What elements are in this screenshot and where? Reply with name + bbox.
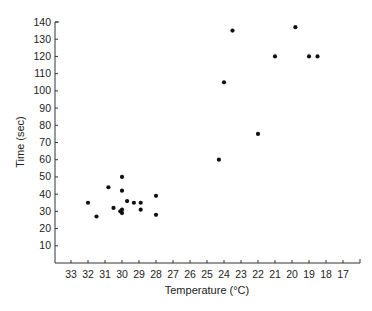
data-point [139,208,143,212]
data-point [256,132,260,136]
data-point [120,189,124,193]
x-tick-label: 24 [218,268,230,280]
y-tick-label: 140 [33,16,51,28]
data-point [111,206,115,210]
y-tick-label: 20 [39,222,51,234]
data-point [120,211,124,215]
y-tick-label: 110 [34,67,51,79]
x-tick-label: 17 [337,268,349,280]
y-tick-label: 30 [39,205,51,217]
data-point [217,158,221,162]
x-tick-label: 19 [303,268,315,280]
y-tick-label: 40 [39,188,51,200]
data-point [273,54,277,58]
x-tick-label: 32 [82,268,94,280]
data-point [94,214,98,218]
data-point [315,54,319,58]
y-tick-label: 10 [39,239,51,251]
data-point [230,29,234,33]
y-axis: 102030405060708090100110120130140 [33,16,59,264]
x-tick-label: 26 [184,268,196,280]
data-point [86,201,90,205]
scatter-chart: 102030405060708090100110120130140 333231… [0,0,372,311]
data-point [154,194,158,198]
x-tick-label: 31 [99,268,111,280]
y-tick-label: 130 [33,33,51,45]
y-tick-label: 80 [39,119,51,131]
x-tick-label: 22 [252,268,264,280]
data-point [293,25,297,29]
x-axis: 3332313029282726252423222120191817 [55,259,360,280]
x-tick-label: 33 [65,268,77,280]
x-tick-label: 23 [235,268,247,280]
x-tick-label: 21 [269,268,281,280]
x-tick-label: 25 [201,268,213,280]
data-point [154,213,158,217]
data-points [86,25,320,219]
y-tick-label: 90 [39,102,51,114]
y-tick-label: 120 [33,50,51,62]
x-tick-label: 29 [133,268,145,280]
y-axis-title: Time (sec) [14,116,26,168]
y-tick-label: 100 [33,84,51,96]
data-point [307,54,311,58]
x-tick-label: 20 [286,268,298,280]
data-point [125,199,129,203]
data-point [106,185,110,189]
x-tick-label: 28 [150,268,162,280]
x-tick-label: 18 [320,268,332,280]
data-point [222,80,226,84]
x-tick-label: 30 [116,268,128,280]
y-tick-label: 60 [39,153,51,165]
y-tick-label: 50 [39,170,51,182]
x-tick-label: 27 [167,268,179,280]
data-point [132,201,136,205]
data-point [139,201,143,205]
x-axis-title: Temperature (°C) [165,284,249,296]
data-point [120,175,124,179]
y-tick-label: 70 [39,136,51,148]
